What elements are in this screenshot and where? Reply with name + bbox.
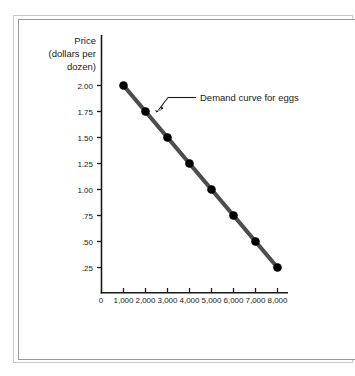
y-tick-label: .50: [82, 238, 94, 247]
x-tick-label: 4,000: [179, 296, 200, 305]
y-tick-label: 2.00: [77, 82, 93, 91]
y-tick-label: 1.25: [77, 160, 93, 169]
y-axis-ticks: 2.00 1.75 1.50 1.25 1.00 .75 .50 .25: [77, 82, 101, 273]
y-tick-label: 1.50: [77, 134, 93, 143]
data-point: [185, 159, 194, 168]
y-axis-title-line1: Price: [74, 35, 96, 46]
x-axis-ticks: 0 1,000 2,000 3,000 4,000 5,000 6,000 7,…: [99, 288, 288, 305]
x-tick-label: 6,000: [223, 296, 244, 305]
y-axis-title-line3: dozen): [67, 61, 96, 72]
x-tick-label: 7,000: [245, 296, 266, 305]
data-point: [141, 107, 150, 116]
y-tick-label: 1.00: [77, 186, 93, 195]
x-tick-label: 8,000: [267, 296, 288, 305]
demand-curve-annotation: Demand curve for eggs: [155, 92, 299, 113]
demand-curve-label: Demand curve for eggs: [200, 92, 299, 103]
x-tick-label: 1,000: [113, 296, 134, 305]
x-tick-label: 5,000: [201, 296, 222, 305]
data-point: [163, 133, 172, 142]
data-point: [251, 237, 260, 246]
y-tick-label: 1.75: [77, 108, 93, 117]
x-tick-label: 3,000: [157, 296, 178, 305]
data-point: [207, 185, 216, 194]
x-tick-label: 2,000: [135, 296, 156, 305]
y-tick-label: .25: [82, 264, 94, 273]
annotation-arrow-shaft: [159, 98, 169, 111]
data-point: [229, 211, 238, 220]
y-tick-label: .75: [82, 212, 94, 221]
x-tick-label: 0: [99, 296, 104, 305]
data-point: [273, 263, 282, 272]
y-axis-title-line2: (dollars per: [48, 48, 96, 59]
data-point: [119, 81, 128, 90]
